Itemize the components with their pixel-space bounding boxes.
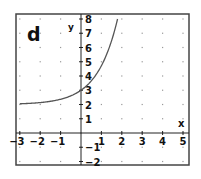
- y-axis-label: y: [68, 22, 74, 32]
- grid-dot: [60, 161, 61, 162]
- y-tick-label: 8: [85, 14, 92, 25]
- grid-dot: [121, 61, 122, 62]
- y-tick-label: 2: [85, 100, 92, 111]
- grid-dot: [162, 104, 163, 105]
- grid-dot: [101, 161, 102, 162]
- grid-dot: [19, 33, 20, 34]
- grid-dot: [142, 47, 143, 48]
- grid-dot: [162, 61, 163, 62]
- grid-dot: [182, 104, 183, 105]
- grid-dot: [121, 47, 122, 48]
- grid-dot: [101, 61, 102, 62]
- grid-dot: [40, 90, 41, 91]
- grid-dot: [19, 75, 20, 76]
- grid-dot: [142, 118, 143, 119]
- grid-dot: [162, 161, 163, 162]
- grid-dot: [19, 47, 20, 48]
- grid-dot: [162, 118, 163, 119]
- grid-dot: [60, 75, 61, 76]
- grid-dot: [40, 47, 41, 48]
- x-tick-label: −1: [50, 136, 65, 147]
- grid-dot: [101, 118, 102, 119]
- y-tick-label: −2: [85, 157, 100, 168]
- grid-dot: [182, 161, 183, 162]
- grid-dot: [19, 18, 20, 19]
- y-tick-label: 6: [85, 43, 92, 54]
- x-tick-label: 5: [180, 136, 187, 147]
- grid-dot: [182, 33, 183, 34]
- grid-dot: [121, 104, 122, 105]
- grid-dot: [142, 104, 143, 105]
- grid-dot: [162, 18, 163, 19]
- grid-dot: [101, 18, 102, 19]
- x-axis-label: x: [178, 118, 185, 129]
- grid-dot: [60, 104, 61, 105]
- grid-dot: [40, 18, 41, 19]
- grid-dot: [60, 33, 61, 34]
- y-tick-label: 5: [85, 57, 92, 68]
- grid-dot: [101, 47, 102, 48]
- grid-dot: [40, 104, 41, 105]
- grid-dot: [121, 118, 122, 119]
- grid-dot: [101, 33, 102, 34]
- grid-dot: [162, 90, 163, 91]
- grid-dot: [121, 18, 122, 19]
- y-ticks: −2−112345678: [79, 14, 100, 168]
- grid-dot: [142, 90, 143, 91]
- grid-dot: [121, 75, 122, 76]
- grid-dot: [162, 47, 163, 48]
- x-tick-label: 2: [118, 136, 125, 147]
- grid-dot: [142, 33, 143, 34]
- grid-dot: [101, 75, 102, 76]
- grid-dot: [60, 18, 61, 19]
- grid-dot: [121, 90, 122, 91]
- grid-dot: [182, 61, 183, 62]
- x-tick-label: 3: [139, 136, 146, 147]
- grid-dot: [182, 75, 183, 76]
- grid-dot: [19, 118, 20, 119]
- grid-dot: [19, 90, 20, 91]
- grid-dot: [19, 61, 20, 62]
- grid-dot: [60, 118, 61, 119]
- y-tick-label: −1: [85, 142, 100, 153]
- grid-dot: [162, 33, 163, 34]
- grid-dot: [182, 47, 183, 48]
- grid-dot: [182, 18, 183, 19]
- y-tick-label: 7: [85, 28, 92, 39]
- grid-dot: [101, 104, 102, 105]
- x-tick-label: −3: [9, 136, 24, 147]
- y-tick-label: 1: [85, 114, 92, 125]
- grid-dot: [60, 47, 61, 48]
- x-tick-label: 4: [159, 136, 166, 147]
- grid-dot: [121, 161, 122, 162]
- x-tick-label: −2: [30, 136, 45, 147]
- panel-label: d: [27, 23, 41, 45]
- grid-dot: [142, 18, 143, 19]
- grid-dot: [182, 90, 183, 91]
- grid-dot: [142, 75, 143, 76]
- grid-dot: [40, 118, 41, 119]
- grid-dot: [40, 61, 41, 62]
- grid-dot: [101, 90, 102, 91]
- grid-dot: [40, 75, 41, 76]
- grid-dot: [142, 61, 143, 62]
- grid-dot: [60, 90, 61, 91]
- grid-dot: [162, 75, 163, 76]
- chart-figure: −3−2−112345 −2−112345678 d y x: [0, 0, 201, 179]
- grid-dot: [40, 161, 41, 162]
- grid-dot: [142, 161, 143, 162]
- grid-dot: [19, 161, 20, 162]
- grid-dot: [121, 33, 122, 34]
- grid-dot: [60, 61, 61, 62]
